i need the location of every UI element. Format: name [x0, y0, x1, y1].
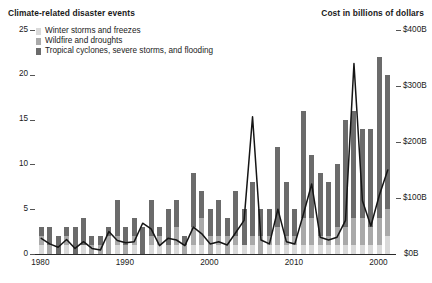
y-axis-right-tickmark: [396, 142, 401, 143]
x-axis-tick-2010: 2010: [285, 258, 303, 267]
y-axis-left-tickmark: [30, 30, 35, 31]
chart-figure: Climate-related disaster events Cost in …: [0, 0, 432, 283]
x-axis-baseline: [33, 254, 396, 255]
chart-title-left: Climate-related disaster events: [8, 8, 135, 18]
y-axis-right-tick-300: $300B: [403, 81, 427, 90]
y-axis-right-tick-200: $200B: [403, 137, 427, 146]
y-axis-left-tickmark: [30, 75, 35, 76]
y-axis-left-tick-10: 10: [2, 159, 28, 168]
plot-area: [37, 30, 392, 254]
y-axis-right-tick-0: $0B: [404, 249, 419, 258]
y-axis-right-tick-400: $400B: [403, 25, 427, 34]
x-axis-tick-2020: 2000: [369, 258, 387, 267]
y-axis-right-tickmark: [396, 30, 401, 31]
cost-line-group: [37, 30, 392, 254]
x-axis-tick-2000: 2000: [200, 258, 218, 267]
cost-line: [41, 64, 388, 250]
y-axis-right-tickmark: [396, 86, 401, 87]
y-axis-left-tick-15: 15: [2, 114, 28, 123]
y-axis-left-tickmark: [30, 120, 35, 121]
y-axis-left-tickmark: [30, 254, 35, 255]
y-axis-right-tickmark: [396, 198, 401, 199]
y-axis-right-tick-100: $100B: [403, 193, 427, 202]
y-axis-left-tick-25: 25: [2, 25, 28, 34]
chart-title-right: Cost in billions of dollars: [321, 8, 424, 18]
y-axis-left-tick-5: 5: [2, 204, 28, 213]
y-axis-left-tick-0: 0: [2, 249, 28, 258]
y-axis-left-tickmark: [30, 209, 35, 210]
x-axis-tick-1980: 1980: [31, 258, 49, 267]
x-axis-tick-1990: 1990: [116, 258, 134, 267]
y-axis-left-tick-20: 20: [2, 69, 28, 78]
y-axis-left-tickmark: [30, 164, 35, 165]
